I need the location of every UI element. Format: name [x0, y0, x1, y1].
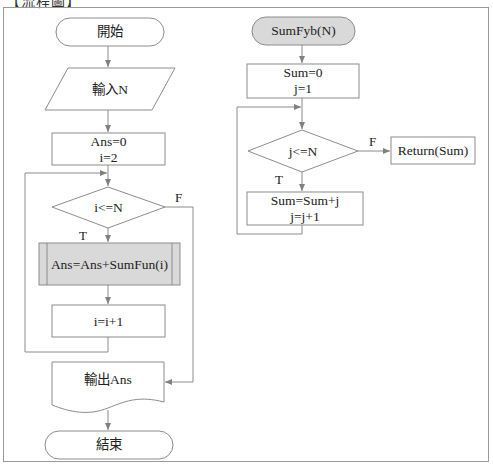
sub-condition-label: j<=N: [248, 143, 358, 160]
sub-false-label: F: [369, 134, 376, 150]
sub-init-label-1: Sum=0: [247, 64, 359, 81]
sub-true-label: T: [275, 172, 283, 188]
condition-label: i<=N: [52, 199, 165, 216]
false-label: F: [175, 190, 182, 206]
start-label: 開始: [56, 23, 164, 40]
end-label: 結束: [45, 436, 173, 453]
sub-body-label-1: Sum=Sum+j: [247, 192, 363, 209]
increment-label: i=i+1: [52, 313, 165, 330]
sub-body-label-2: j=j+1: [247, 208, 363, 225]
init-label-1: Ans=0: [52, 133, 165, 150]
output-label: 輸出Ans: [52, 371, 164, 388]
sub-init-label-2: j=1: [247, 80, 359, 97]
subprocess-label: Ans=Ans+SumFun(i): [39, 256, 180, 273]
true-label: T: [79, 228, 87, 244]
return-label: Return(Sum): [391, 142, 475, 159]
init-label-2: i=2: [52, 149, 165, 166]
sub-start-label: SumFyb(N): [252, 22, 355, 39]
input-label: 輸入N: [56, 81, 164, 98]
